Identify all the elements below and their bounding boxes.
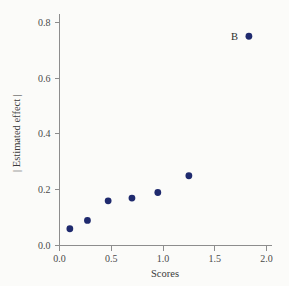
- axes-group: [60, 14, 272, 246]
- y-tick-label: 0.8: [38, 17, 51, 28]
- x-tick-label: 2.0: [260, 253, 273, 264]
- y-axis-title: | Estimated effect |: [11, 94, 22, 172]
- data-point: [66, 225, 73, 232]
- ticks-group: [55, 22, 267, 250]
- y-tick-label: 0.6: [38, 73, 51, 84]
- data-point: [246, 33, 253, 40]
- annotations-group: B: [231, 31, 238, 42]
- x-tick-label: 1.0: [157, 253, 170, 264]
- data-point: [84, 217, 91, 224]
- y-tick-label: 0.4: [38, 128, 51, 139]
- data-point: [129, 195, 136, 202]
- data-point: [154, 189, 161, 196]
- x-axis-title: Scores: [151, 268, 179, 279]
- data-point: [185, 172, 192, 179]
- y-tick-label: 0.0: [38, 240, 51, 251]
- plot-canvas: 0.00.51.01.52.00.00.20.40.60.8 B Scores …: [0, 0, 289, 286]
- y-tick-label: 0.2: [38, 184, 51, 195]
- x-tick-label: 0.5: [105, 253, 118, 264]
- data-points-group: [66, 33, 252, 232]
- data-point-label: B: [231, 31, 238, 42]
- tick-labels-group: 0.00.51.01.52.00.00.20.40.60.8: [38, 17, 273, 264]
- data-point: [105, 197, 112, 204]
- x-tick-label: 1.5: [209, 253, 222, 264]
- scatter-plot-figure: 0.00.51.01.52.00.00.20.40.60.8 B Scores …: [0, 0, 289, 286]
- x-tick-label: 0.0: [53, 253, 66, 264]
